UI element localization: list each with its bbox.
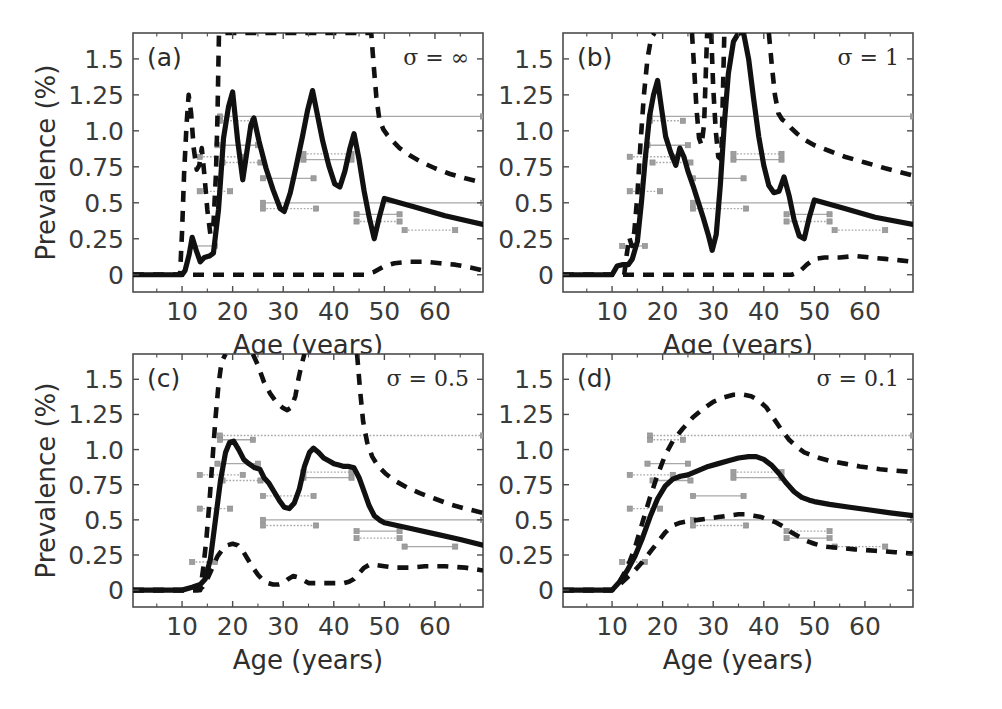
observation-marker-a-3-0 (197, 154, 202, 159)
observation-marker-d-1-1 (680, 437, 685, 442)
xticklabel-c-2: 30 (267, 612, 299, 641)
xticklabel-d-2: 30 (697, 612, 729, 641)
observation-marker-c-13-1 (453, 544, 458, 549)
yticklabel-b-3: 0.75 (498, 153, 554, 182)
observation-marker-c-8-1 (228, 506, 233, 511)
observation-marker-b-8-0 (627, 189, 632, 194)
xticklabel-b-1: 20 (647, 297, 679, 326)
observation-marker-d-2-1 (685, 461, 690, 466)
observation-marker-a-13-1 (453, 228, 458, 233)
sigma-annotation-d: σ = 0.1 (817, 366, 899, 391)
observation-marker-b-13-1 (883, 228, 888, 233)
observation-marker-d-8-1 (658, 506, 663, 511)
observation-marker-a-6-0 (301, 157, 306, 162)
observation-marker-a-9-0 (260, 200, 265, 205)
observation-marker-d-14-0 (620, 559, 625, 564)
panel-tag-c: (c) (147, 364, 180, 393)
observation-marker-c-2-1 (255, 461, 260, 466)
observation-marker-c-7-1 (311, 493, 316, 498)
xticklabel-a-0: 10 (166, 297, 198, 326)
observation-marker-c-6-1 (349, 475, 354, 480)
observation-marker-c-9-0 (260, 517, 265, 522)
observation-marker-a-7-0 (260, 176, 265, 181)
yticklabel-d-5: 1.25 (498, 400, 554, 429)
observation-marker-a-7-1 (311, 176, 316, 181)
yticklabel-a-6: 1.5 (84, 45, 124, 74)
observation-marker-b-7-1 (741, 176, 746, 181)
observation-marker-b-3-0 (627, 154, 632, 159)
observation-marker-b-6-1 (779, 157, 784, 162)
observation-marker-a-13-0 (402, 228, 407, 233)
observation-marker-b-11-1 (827, 212, 832, 217)
yticklabel-a-3: 0.75 (68, 153, 124, 182)
xticklabel-c-4: 50 (368, 612, 400, 641)
observation-marker-c-11-1 (397, 529, 402, 534)
observation-marker-c-8-0 (197, 506, 202, 511)
sigma-annotation-b: σ = 1 (838, 45, 899, 70)
observation-marker-d-7-1 (741, 493, 746, 498)
observation-marker-a-8-0 (197, 189, 202, 194)
observation-marker-d-11-1 (827, 529, 832, 534)
yticklabel-d-6: 1.5 (514, 365, 554, 394)
yticklabel-d-1: 0.25 (498, 541, 554, 570)
xticklabel-b-4: 50 (798, 297, 830, 326)
panel-tag-d: (d) (577, 364, 612, 393)
observation-marker-a-12-1 (397, 219, 402, 224)
observation-marker-d-2-0 (645, 461, 650, 466)
xticklabel-b-5: 60 (849, 297, 881, 326)
yticklabel-d-4: 1.0 (514, 436, 554, 465)
yticklabel-c-4: 1.0 (84, 436, 124, 465)
observation-marker-a-8-1 (228, 189, 233, 194)
yticklabel-c-5: 1.25 (68, 400, 124, 429)
observation-marker-d-11-0 (784, 529, 789, 534)
observation-marker-b-12-1 (827, 219, 832, 224)
observation-marker-d-12-1 (827, 536, 832, 541)
yticklabel-b-5: 1.25 (498, 81, 554, 110)
observation-marker-b-10-1 (743, 206, 748, 211)
observation-marker-c-14-0 (190, 559, 195, 564)
observation-marker-a-12-0 (354, 219, 359, 224)
observation-marker-d-10-1 (743, 523, 748, 528)
xticklabel-d-5: 60 (849, 612, 881, 641)
panel-d: 10203040506000.250.50.751.01.251.5(d)σ =… (498, 354, 915, 675)
observation-marker-a-11-1 (397, 212, 402, 217)
observation-marker-b-13-0 (832, 228, 837, 233)
xticklabel-a-1: 20 (217, 297, 249, 326)
observation-marker-d-6-0 (731, 475, 736, 480)
yticklabel-c-3: 0.75 (68, 471, 124, 500)
figure-root: 10203040506000.250.50.751.01.251.5(a)σ =… (0, 0, 1002, 709)
xticklabel-c-5: 60 (419, 612, 451, 641)
observation-marker-c-2-0 (215, 461, 220, 466)
observation-marker-a-10-1 (313, 206, 318, 211)
figure-canvas: 10203040506000.250.50.751.01.251.5(a)σ =… (0, 0, 1002, 709)
yticklabel-b-1: 0.25 (498, 225, 554, 254)
xticklabel-a-2: 30 (267, 297, 299, 326)
observation-marker-a-11-0 (354, 212, 359, 217)
yticklabel-d-3: 0.75 (498, 471, 554, 500)
panel-tag-a: (a) (147, 43, 182, 72)
xticklabel-a-5: 60 (419, 297, 451, 326)
observation-marker-b-11-0 (784, 212, 789, 217)
observation-marker-d-7-0 (690, 493, 695, 498)
observation-marker-d-10-0 (690, 523, 695, 528)
panel-c: 10203040506000.250.50.751.01.251.5(c)σ =… (31, 354, 486, 675)
observation-marker-c-12-1 (397, 536, 402, 541)
xticklabel-a-3: 40 (318, 297, 350, 326)
plot-frame-c (133, 354, 483, 607)
observation-marker-c-10-1 (313, 523, 318, 528)
sigma-annotation-c: σ = 0.5 (387, 366, 469, 391)
observation-marker-b-2-1 (685, 143, 690, 148)
observation-marker-c-13-0 (402, 544, 407, 549)
xticklabel-d-3: 40 (748, 612, 780, 641)
yticklabel-a-5: 1.25 (68, 81, 124, 110)
xticklabel-d-4: 50 (798, 612, 830, 641)
xticklabel-a-4: 50 (368, 297, 400, 326)
observation-marker-a-0-1 (480, 114, 485, 119)
sigma-annotation-a: σ = ∞ (403, 45, 469, 70)
observation-marker-b-9-0 (690, 200, 695, 205)
observation-marker-c-1-0 (217, 437, 222, 442)
xticklabel-c-0: 10 (166, 612, 198, 641)
yaxis-title-c: Prevalence (%) (31, 383, 61, 579)
yticklabel-d-2: 0.5 (514, 506, 554, 535)
observation-marker-b-5-1 (779, 151, 784, 156)
